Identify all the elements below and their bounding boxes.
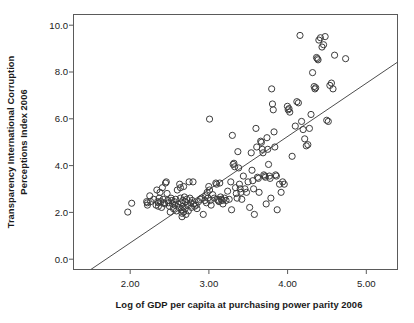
x-tick-marks <box>130 270 366 274</box>
data-point <box>228 207 234 213</box>
data-point <box>289 153 295 159</box>
data-point <box>147 193 153 199</box>
x-tick-label: 4.00 <box>278 278 297 289</box>
x-tick-label: 3.00 <box>200 278 219 289</box>
scatter-plot-figure: Transparency International Corruption Pe… <box>0 0 414 323</box>
y-tick-label: 0.0 <box>55 254 68 265</box>
y-axis-title-line2: Perceptions Index 2006 <box>18 89 29 194</box>
data-point <box>297 32 303 38</box>
data-point <box>228 179 234 185</box>
chart-canvas: Transparency International Corruption Pe… <box>0 0 414 323</box>
y-axis-title: Transparency International Corruption Pe… <box>5 55 29 228</box>
data-point <box>298 118 304 124</box>
data-point <box>190 179 196 185</box>
data-point <box>247 204 253 210</box>
data-point <box>271 129 277 135</box>
plot-frame <box>74 15 398 270</box>
y-axis-title-line1: Transparency International Corruption <box>5 55 16 228</box>
y-tick-label: 6.0 <box>55 113 68 124</box>
data-point <box>269 86 275 92</box>
data-point <box>302 136 308 142</box>
regression-line <box>91 62 398 269</box>
y-tick-label: 4.0 <box>55 160 68 171</box>
data-point <box>235 149 241 155</box>
data-point <box>268 195 274 201</box>
data-point <box>206 116 212 122</box>
data-point <box>274 207 280 213</box>
data-point <box>229 132 235 138</box>
data-point <box>264 135 270 141</box>
data-point <box>343 56 349 62</box>
data-point <box>292 123 298 129</box>
data-point <box>249 167 255 173</box>
data-point <box>295 100 301 106</box>
data-point <box>263 201 269 207</box>
x-tick-label: 2.00 <box>121 278 140 289</box>
data-point <box>248 150 254 156</box>
data-point <box>309 70 315 76</box>
data-point <box>308 111 314 117</box>
y-tick-label: 2.0 <box>55 207 68 218</box>
data-point <box>253 125 259 131</box>
data-point <box>240 173 246 179</box>
y-tick-labels: 10.0 8.0 6.0 4.0 2.0 0.0 <box>49 20 68 265</box>
data-point <box>129 200 135 206</box>
data-point <box>125 209 131 215</box>
data-point <box>200 211 206 217</box>
y-tick-label: 8.0 <box>55 66 68 77</box>
x-tick-label: 5.00 <box>357 278 376 289</box>
data-point <box>270 107 276 113</box>
data-point <box>251 211 257 217</box>
x-axis-title: Log of GDP per capita at purchasing powe… <box>116 299 363 310</box>
data-point <box>269 101 275 107</box>
data-point <box>331 52 337 58</box>
x-tick-labels: 2.00 3.00 4.00 5.00 <box>121 278 376 289</box>
data-points-layer <box>125 32 349 220</box>
data-point <box>265 161 271 167</box>
data-point <box>278 189 284 195</box>
data-point <box>325 118 331 124</box>
data-point <box>306 125 312 131</box>
y-tick-marks <box>69 25 73 259</box>
data-point <box>300 126 306 132</box>
data-point <box>225 188 231 194</box>
data-point <box>305 142 311 148</box>
data-point <box>256 189 262 195</box>
y-tick-label: 10.0 <box>49 20 68 31</box>
